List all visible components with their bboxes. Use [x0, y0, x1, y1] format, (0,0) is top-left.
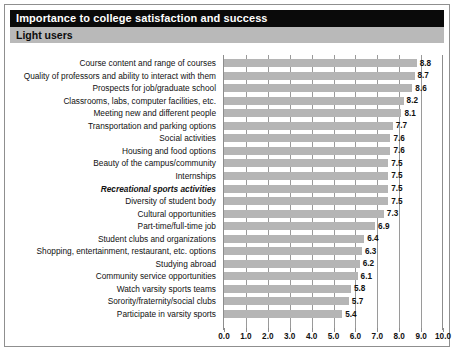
- category-label: Quality of professors and ability to int…: [24, 70, 216, 83]
- bar-row: Participate in varsity sports5.4: [10, 308, 444, 321]
- tick-mark: [268, 328, 269, 332]
- category-label: Prospects for job/graduate school: [92, 82, 216, 95]
- bar-row: Meeting new and different people8.1: [10, 107, 444, 120]
- tick-label: 8.0: [393, 332, 404, 341]
- tick-label: 6.0: [350, 332, 361, 341]
- bar-row: Housing and food options7.6: [10, 145, 444, 158]
- bar-value-label: 7.5: [391, 158, 402, 170]
- category-label: Community service opportunities: [96, 270, 216, 283]
- bar-row: Quality of professors and ability to int…: [10, 70, 444, 83]
- category-label: Meeting new and different people: [93, 107, 216, 120]
- plot-area: Course content and range of courses8.8Qu…: [10, 49, 444, 343]
- bar: [224, 297, 349, 305]
- bar-value-label: 8.7: [418, 70, 429, 82]
- x-axis-ticks: 0.01.02.03.04.05.06.07.08.09.010.0: [10, 332, 444, 344]
- tick-mark: [334, 328, 335, 332]
- category-label: Recreational sports activities: [101, 183, 216, 196]
- bar-value-label: 7.5: [391, 183, 402, 195]
- bar-value-label: 7.3: [387, 208, 398, 220]
- category-label: Beauty of the campus/community: [93, 157, 216, 170]
- bar: [224, 210, 384, 218]
- category-label: Diversity of student body: [125, 195, 216, 208]
- bar-row: Transportation and parking options7.7: [10, 120, 444, 133]
- category-label: Sorority/fraternity/social clubs: [108, 295, 216, 308]
- bar: [224, 222, 375, 230]
- bar-value-label: 7.5: [391, 170, 402, 182]
- bar: [224, 310, 342, 318]
- bar-row: Beauty of the campus/community7.5: [10, 157, 444, 170]
- tick-label: 9.0: [415, 332, 426, 341]
- tick-mark: [399, 328, 400, 332]
- bar: [224, 134, 390, 142]
- bar-value-label: 8.6: [415, 83, 426, 95]
- bar: [224, 159, 388, 167]
- tick-mark: [355, 328, 356, 332]
- bar-row: Social activities7.6: [10, 132, 444, 145]
- chart-subtitle: Light users: [10, 27, 444, 43]
- bar-row: Prospects for job/graduate school8.6: [10, 82, 444, 95]
- bar: [224, 59, 417, 67]
- bar: [224, 172, 388, 180]
- bar-row: Studying abroad6.2: [10, 258, 444, 271]
- bar-value-label: 7.6: [393, 133, 404, 145]
- bar-value-label: 6.1: [361, 271, 372, 283]
- category-label: Internships: [175, 170, 216, 183]
- bar-value-label: 5.8: [354, 283, 365, 295]
- tick-label: 0.0: [218, 332, 229, 341]
- bar-row: Part-time/full-time job6.9: [10, 220, 444, 233]
- bar-value-label: 8.1: [404, 108, 415, 120]
- category-label: Student clubs and organizations: [98, 233, 216, 246]
- tick-label: 2.0: [262, 332, 273, 341]
- bar: [224, 122, 393, 130]
- tick-label: 10.0: [435, 332, 451, 341]
- bar-row: Community service opportunities6.1: [10, 270, 444, 283]
- chart-figure: Importance to college satisfaction and s…: [4, 4, 450, 347]
- tick-label: 7.0: [372, 332, 383, 341]
- bar-value-label: 7.7: [396, 120, 407, 132]
- bar-value-label: 8.8: [420, 58, 431, 70]
- bar-row: Course content and range of courses8.8: [10, 57, 444, 70]
- bar-row: Classrooms, labs, computer facilities, e…: [10, 95, 444, 108]
- bar-value-label: 5.7: [352, 296, 363, 308]
- bar: [224, 185, 388, 193]
- tick-mark: [290, 328, 291, 332]
- bar-value-label: 6.2: [363, 258, 374, 270]
- category-label: Classrooms, labs, computer facilities, e…: [63, 95, 216, 108]
- tick-label: 3.0: [284, 332, 295, 341]
- tick-mark: [443, 328, 444, 332]
- bar-value-label: 5.4: [345, 309, 356, 321]
- bar-row: Student clubs and organizations6.4: [10, 233, 444, 246]
- tick-label: 5.0: [328, 332, 339, 341]
- category-label: Watch varsity sports teams: [117, 283, 216, 296]
- bar: [224, 84, 412, 92]
- bar-value-label: 7.5: [391, 196, 402, 208]
- bar-row: Watch varsity sports teams5.8: [10, 283, 444, 296]
- bar: [224, 285, 351, 293]
- bar-row: Sorority/fraternity/social clubs5.7: [10, 295, 444, 308]
- bar-row: Shopping, entertainment, restaurant, etc…: [10, 245, 444, 258]
- bar: [224, 72, 415, 80]
- bar: [224, 147, 390, 155]
- category-label: Transportation and parking options: [88, 120, 216, 133]
- category-label: Cultural opportunities: [138, 208, 216, 221]
- tick-label: 4.0: [306, 332, 317, 341]
- bar: [224, 235, 364, 243]
- tick-mark: [312, 328, 313, 332]
- bar-row: Diversity of student body7.5: [10, 195, 444, 208]
- bar-row: Recreational sports activities7.5: [10, 183, 444, 196]
- tick-mark: [421, 328, 422, 332]
- category-label: Social activities: [159, 132, 216, 145]
- bar-row: Cultural opportunities7.3: [10, 208, 444, 221]
- bar: [224, 109, 401, 117]
- tick-label: 1.0: [240, 332, 251, 341]
- category-label: Studying abroad: [156, 258, 216, 271]
- bar: [224, 260, 360, 268]
- chart-title: Importance to college satisfaction and s…: [10, 10, 444, 27]
- bar-row: Internships7.5: [10, 170, 444, 183]
- bar: [224, 272, 358, 280]
- bar-value-label: 7.6: [393, 145, 404, 157]
- bar: [224, 197, 388, 205]
- category-label: Shopping, entertainment, restaurant, etc…: [37, 245, 216, 258]
- category-label: Course content and range of courses: [79, 57, 216, 70]
- bar: [224, 97, 404, 105]
